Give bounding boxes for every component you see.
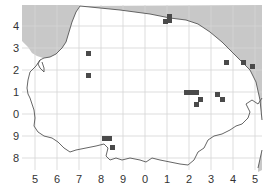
x-label: 8 (98, 173, 104, 185)
y-label: 1 (13, 86, 19, 98)
x-label: 4 (230, 173, 236, 185)
y-axis-labels: 4 3 2 1 0 9 8 (13, 20, 19, 164)
y-label: 8 (13, 152, 19, 164)
x-label: 9 (120, 173, 126, 185)
x-label: 7 (76, 173, 82, 185)
distribution-map: 4 3 2 1 0 9 8 5 6 7 8 9 0 1 2 3 4 5 (0, 0, 274, 187)
x-label: 5 (32, 173, 38, 185)
y-label: 2 (13, 64, 19, 76)
sea-areas (22, 5, 262, 172)
x-label: 0 (142, 173, 148, 185)
x-label: 6 (54, 173, 60, 185)
x-label: 1 (164, 173, 170, 185)
x-label: 3 (208, 173, 214, 185)
y-label: 0 (13, 108, 19, 120)
x-axis-labels: 5 6 7 8 9 0 1 2 3 4 5 (32, 173, 258, 185)
y-label: 3 (13, 42, 19, 54)
y-label: 4 (13, 20, 19, 32)
y-label: 9 (13, 130, 19, 142)
x-label: 5 (252, 173, 258, 185)
x-label: 2 (186, 173, 192, 185)
